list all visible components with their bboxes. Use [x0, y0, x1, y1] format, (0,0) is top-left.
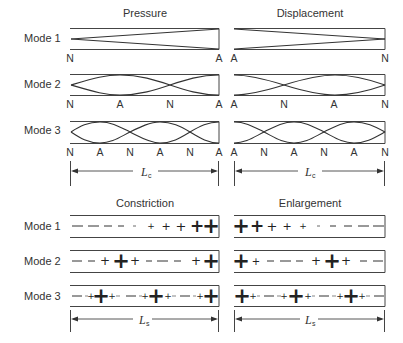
bottom-mode-3-label: Mode 3 [24, 290, 61, 302]
displacement-mode-3-tube [234, 122, 385, 144]
svg-text:+: + [191, 254, 201, 268]
enlargement-title: Enlargement [279, 197, 341, 209]
enlargement-mode-2-signs: + + + + + [232, 249, 383, 273]
svg-text:+: + [358, 291, 366, 301]
svg-text:+: + [233, 284, 251, 308]
node-label: A [330, 98, 337, 110]
node-label: N [186, 146, 194, 158]
svg-text:+: + [252, 256, 260, 267]
node-label: A [96, 146, 103, 158]
node-label: N [280, 98, 288, 110]
enlargement-mode-1-signs: + + + + + [232, 214, 384, 238]
svg-text:+: + [342, 284, 360, 308]
node-label: N [66, 146, 74, 158]
node-label: A [350, 146, 357, 158]
lc-subscript: c [148, 172, 152, 179]
acoustic-modes-diagram: Pressure Displacement Mode 1 Mode 2 Mode… [0, 0, 403, 343]
top-mode-1-label: Mode 1 [24, 32, 61, 44]
displacement-mode-1-tube [234, 29, 385, 50]
svg-text:+: + [100, 254, 110, 268]
node-label: A [215, 52, 222, 64]
bottom-mode-1-label: Mode 1 [24, 220, 61, 232]
svg-text:+: + [287, 284, 305, 308]
svg-text:+: + [341, 254, 351, 268]
pressure-mode-3-tube [70, 122, 219, 144]
svg-text:+: + [323, 249, 341, 273]
node-label: N [381, 52, 389, 64]
svg-text:+: + [164, 291, 172, 301]
node-label: N [126, 146, 134, 158]
node-label: A [215, 146, 222, 158]
lc-subscript-right: c [312, 172, 316, 179]
node-label: A [156, 146, 163, 158]
ls-subscript-right: s [312, 320, 316, 327]
constriction-title: Constriction [116, 197, 174, 209]
displacement-mode-2-tube [234, 75, 385, 96]
lc-symbol-right: L [304, 165, 312, 179]
node-label: N [381, 146, 389, 158]
top-mode-2-label: Mode 2 [24, 78, 61, 90]
svg-text:+: + [147, 284, 165, 308]
svg-text:+: + [92, 284, 110, 308]
svg-text:+: + [176, 219, 187, 234]
svg-text:+: + [232, 214, 250, 238]
svg-text:+: + [112, 249, 130, 273]
svg-text:+: + [147, 221, 155, 231]
constriction-mode-1-signs: + + + + + [72, 214, 220, 238]
svg-text:+: + [161, 220, 170, 233]
svg-text:+: + [304, 291, 312, 301]
bottom-mode-2-label: Mode 2 [24, 255, 61, 267]
svg-text:+: + [108, 291, 116, 301]
svg-text:+: + [202, 214, 220, 238]
pressure-title: Pressure [123, 7, 167, 19]
svg-text:+: + [282, 220, 291, 233]
node-label: N [320, 146, 328, 158]
ls-symbol: L [138, 313, 146, 327]
constriction-mode-2-signs: + + + + + [72, 249, 220, 273]
ls-symbol-right: L [304, 313, 312, 327]
svg-text:+: + [130, 254, 140, 268]
node-label: A [290, 146, 297, 158]
constriction-mode-3-signs: + + + + + + + + [72, 284, 220, 308]
svg-text:+: + [249, 291, 257, 301]
node-label: N [381, 98, 389, 110]
svg-text:+: + [202, 284, 220, 308]
svg-text:+: + [250, 216, 264, 236]
displacement-title: Displacement [277, 7, 344, 19]
lc-symbol: L [140, 165, 148, 179]
pressure-mode-2-tube [70, 75, 219, 96]
node-label: A [230, 98, 237, 110]
node-label: N [66, 52, 74, 64]
pressure-mode-1-tube [70, 29, 219, 50]
svg-text:+: + [267, 219, 278, 234]
node-label: A [230, 52, 237, 64]
node-label: A [215, 98, 222, 110]
node-label: N [260, 146, 268, 158]
node-label: N [166, 98, 174, 110]
node-label: A [230, 146, 237, 158]
svg-text:+: + [202, 249, 220, 273]
ls-subscript: s [146, 320, 150, 327]
svg-text:+: + [299, 221, 307, 231]
enlargement-mode-3-signs: + + + + + + + + [233, 284, 384, 308]
top-mode-3-label: Mode 3 [24, 124, 61, 136]
svg-text:+: + [311, 254, 321, 268]
svg-text:+: + [232, 249, 250, 273]
node-label: N [66, 98, 74, 110]
node-label: A [116, 98, 123, 110]
